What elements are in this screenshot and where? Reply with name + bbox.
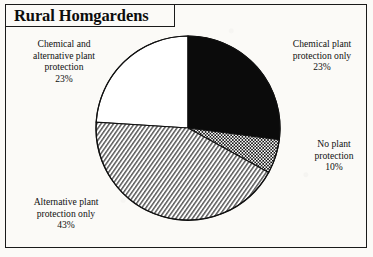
slice-label-no-protection: No plant protection 10%: [300, 138, 368, 173]
slice-label-chemical-and-alternative: Chemical and alternative plant protectio…: [8, 38, 120, 84]
pie-slice-chemical-only[interactable]: [188, 36, 280, 140]
slice-label-chemical-only: Chemical plant protection only 23%: [276, 38, 368, 73]
page-title: Rural Homgardens: [14, 6, 149, 26]
pie-chart-figure: Rural Homgardens Chemical and alternativ…: [0, 0, 373, 257]
slice-label-alternative-only: Alternative plant protection only 43%: [6, 196, 126, 231]
